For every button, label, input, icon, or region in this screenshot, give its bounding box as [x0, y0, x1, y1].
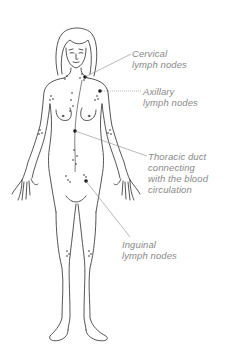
- right-hand: [114, 179, 140, 200]
- label-line: connecting: [148, 162, 208, 173]
- left-hand: [12, 179, 38, 200]
- torso-outline: [22, 78, 64, 180]
- label-line: with the blood: [148, 173, 208, 184]
- label-line: circulation: [148, 184, 208, 195]
- right-leg: [86, 212, 107, 341]
- label-line: Cervical: [132, 48, 187, 59]
- inguinal-leader-line: [86, 181, 130, 237]
- left-leg: [50, 212, 68, 341]
- label-thoracic-duct: Thoracic duct connecting with the blood …: [148, 151, 208, 195]
- cervical-leader-line: [85, 54, 131, 77]
- label-line: Thoracic duct: [148, 151, 208, 162]
- label-line: lymph nodes: [132, 59, 187, 70]
- label-inguinal-lymph-nodes: Inguinal lymph nodes: [122, 239, 177, 261]
- thoracic-duct: [75, 80, 82, 172]
- label-line: Axillary: [143, 86, 198, 97]
- label-line: lymph nodes: [143, 97, 198, 108]
- label-cervical-lymph-nodes: Cervical lymph nodes: [132, 48, 187, 70]
- label-line: Inguinal: [122, 239, 177, 250]
- label-axillary-lymph-nodes: Axillary lymph nodes: [143, 86, 198, 108]
- label-line: lymph nodes: [122, 250, 177, 261]
